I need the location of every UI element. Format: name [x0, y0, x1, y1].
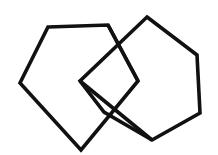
link-diagram-figure	[0, 0, 218, 155]
